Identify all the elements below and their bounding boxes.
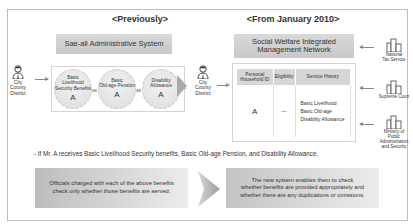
new-system-label-line2: Management Network <box>252 46 336 54</box>
after-panel: The new system enables them to check whe… <box>226 168 379 208</box>
table-row: A — Basic Livelihood Basic Old-age Disab… <box>237 85 351 137</box>
old-system-label: Sae-all Administrative System <box>64 40 163 48</box>
building-icon <box>386 115 402 129</box>
person-icon <box>197 65 209 79</box>
from-2010-heading: <From January 2010> <box>238 14 348 24</box>
separate-benefits-box: Basic Livelihood Security Benefits A ⋈ B… <box>51 66 185 112</box>
arrow-right-icon <box>217 85 229 86</box>
official-left: City County District <box>4 65 32 96</box>
old-system-bar: Sae-all Administrative System <box>56 34 172 54</box>
arrow-right-icon <box>35 79 48 80</box>
transition-arrow-icon <box>177 75 187 97</box>
benefit-circle: Basic Old-age Pension A <box>98 69 136 109</box>
new-system-bar: Social Welfare Integrated Management Net… <box>234 34 354 58</box>
service-history-cell: Basic Livelihood Basic Old-age Disabilit… <box>295 85 351 137</box>
eligibility-cell: — <box>273 85 295 137</box>
building-icon <box>386 80 402 94</box>
link-icon: ⋈ <box>92 87 97 93</box>
integrated-record-table: Personal Household ID Eligibility Servic… <box>237 69 351 137</box>
person-icon <box>12 65 24 79</box>
column-header: Service History <box>295 69 351 85</box>
org-ministry-public-administration: Ministry of Public Administration and Se… <box>376 115 412 150</box>
org-national-tax-service: National Tax Service <box>376 38 412 63</box>
column-header: Eligibility <box>273 69 295 85</box>
integrated-record-box: Personal Household ID Eligibility Servic… <box>232 63 356 142</box>
arrow-left-icon <box>360 124 374 125</box>
chevron-right-icon <box>198 171 220 207</box>
official-right: City County District <box>189 65 217 96</box>
column-header: Personal Household ID <box>237 69 273 85</box>
building-icon <box>386 38 402 52</box>
arrow-left-icon <box>360 47 374 48</box>
example-note: - If Mr. A receives Basic Livelihood Sec… <box>34 150 318 157</box>
benefit-circle: Basic Livelihood Security Benefits A <box>54 69 92 109</box>
arrow-left-icon <box>360 88 374 89</box>
benefit-circle: Disability Allowance A <box>142 69 180 109</box>
household-id-cell: A <box>237 85 273 137</box>
link-icon: ⋈ <box>136 87 141 93</box>
org-supreme-court: Supreme Court <box>376 80 412 100</box>
before-panel: Officials charged with each of the above… <box>35 168 188 208</box>
previously-heading: <Previously> <box>85 14 195 24</box>
